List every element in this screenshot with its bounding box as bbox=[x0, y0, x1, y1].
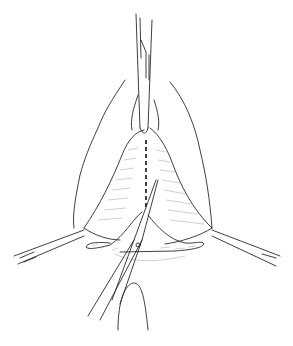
incised-pocket bbox=[86, 212, 204, 261]
clamp-left bbox=[14, 230, 84, 264]
illustration-svg bbox=[0, 0, 293, 346]
finger bbox=[118, 283, 148, 330]
surgical-illustration bbox=[0, 0, 293, 346]
scissors bbox=[88, 180, 158, 320]
tissue-triangle bbox=[84, 128, 212, 244]
forceps-top bbox=[131, 14, 158, 133]
clamp-right bbox=[212, 230, 280, 266]
outer-contours bbox=[73, 80, 212, 228]
